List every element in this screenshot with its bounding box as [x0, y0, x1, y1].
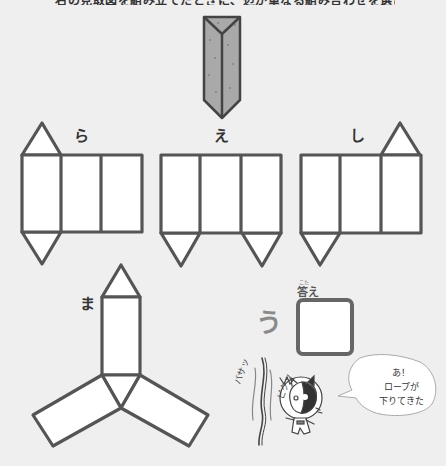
- net-label-ma: ま: [80, 297, 95, 312]
- net-label-e: え: [214, 129, 229, 144]
- triangular-prism-illustration: [204, 17, 240, 118]
- speech-bubble-text: あ！ ロープが 下りてきた: [366, 366, 436, 408]
- speech-line-1: あ！: [366, 366, 436, 380]
- answer-hint-character: う: [256, 310, 282, 336]
- sfx-basa: バサッ: [232, 357, 251, 386]
- cat-astronaut-illustration: [252, 358, 322, 445]
- speech-line-2: ロープが: [366, 380, 436, 394]
- net-ma[interactable]: [33, 265, 208, 446]
- net-e[interactable]: [161, 155, 281, 266]
- net-label-shi: し: [350, 129, 365, 144]
- answer-input-box[interactable]: [296, 298, 354, 356]
- answer-heading: 答え: [297, 283, 319, 299]
- speech-line-3: 下りてきた: [366, 394, 436, 408]
- net-label-ra: ら: [74, 129, 89, 144]
